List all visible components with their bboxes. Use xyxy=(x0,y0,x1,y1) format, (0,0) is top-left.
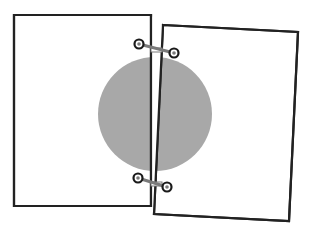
clip-rivet-icon xyxy=(137,42,141,46)
clip-rivet-icon xyxy=(172,51,176,55)
clip-rivet-icon xyxy=(136,176,140,180)
diagram-canvas xyxy=(0,0,315,229)
clip-rivet-icon xyxy=(165,185,169,189)
